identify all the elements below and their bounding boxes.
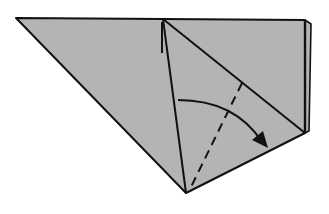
origami-diagram (0, 0, 329, 214)
folded-paper (16, 18, 305, 193)
